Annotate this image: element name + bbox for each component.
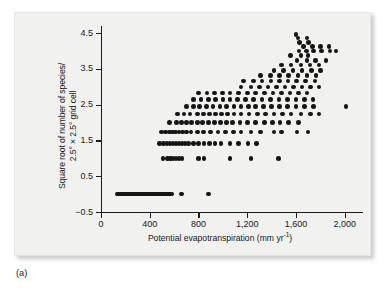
scatter-point — [311, 49, 316, 54]
scatter-point — [228, 97, 233, 102]
scatter-point — [191, 104, 196, 109]
scatter-point — [236, 91, 241, 96]
scatter-point — [223, 130, 228, 135]
x-axis-tick-label: 800 — [191, 219, 206, 229]
y-axis-tick: 2.5 — [96, 105, 101, 106]
scatter-point — [249, 85, 254, 90]
x-axis-tick-label: 0 — [98, 219, 103, 229]
scatter-point — [301, 44, 306, 49]
scatter-point — [297, 40, 302, 45]
y-axis-tick: 4.5 — [96, 33, 101, 34]
scatter-point — [318, 44, 323, 49]
scatter-point — [263, 112, 268, 117]
scatter-point — [230, 120, 235, 125]
scatter-point — [319, 49, 324, 54]
scatter-point — [184, 120, 189, 125]
x-axis-unit-exponent: -1 — [284, 231, 290, 238]
scatter-point — [208, 130, 213, 135]
scatter-point — [313, 79, 318, 84]
scatter-point — [305, 91, 310, 96]
scatter-point — [221, 97, 226, 102]
scatter-point — [294, 79, 299, 84]
scatter-point — [272, 68, 277, 73]
scatter-point — [224, 104, 229, 109]
scatter-point — [246, 104, 251, 109]
scatter-point — [220, 91, 225, 96]
scatter-point — [272, 112, 277, 117]
scatter-point — [211, 104, 216, 109]
scatter-point — [317, 63, 322, 68]
scatter-point — [277, 104, 282, 109]
x-axis-tick — [296, 213, 297, 218]
scatter-point — [189, 120, 194, 125]
scatter-point — [218, 120, 223, 125]
scatter-point — [246, 141, 251, 146]
scatter-point — [239, 85, 244, 90]
scatter-point — [314, 73, 319, 78]
scatter-point — [247, 112, 252, 117]
scatter-point — [239, 130, 244, 135]
scatter-point — [205, 91, 210, 96]
y-axis-tick: 3.5 — [96, 69, 101, 70]
scatter-point — [235, 97, 240, 102]
scatter-point — [206, 120, 211, 125]
scatter-point — [285, 97, 290, 102]
x-axis-tick — [101, 213, 102, 218]
y-axis-tick-label: 4.5 — [80, 28, 93, 38]
scatter-point — [289, 63, 294, 68]
scatter-point — [182, 112, 187, 117]
x-axis-tick — [150, 213, 151, 218]
scatter-point — [285, 104, 290, 109]
scatter-point — [291, 68, 296, 73]
scatter-point — [277, 73, 282, 78]
scatter-point — [344, 104, 349, 109]
scatter-point — [304, 49, 309, 54]
scatter-point — [294, 32, 299, 37]
scatter-point — [286, 120, 291, 125]
scatter-point — [260, 79, 265, 84]
scatter-point — [277, 97, 282, 102]
scatter-point — [213, 141, 218, 146]
scatter-point — [228, 91, 233, 96]
scatter-point — [291, 85, 296, 90]
x-axis-tick-label: 400 — [142, 219, 157, 229]
scatter-point — [195, 112, 200, 117]
scatter-point — [317, 112, 322, 117]
scatter-point — [279, 91, 284, 96]
scatter-point — [279, 130, 284, 135]
scatter-point — [269, 79, 274, 84]
scatter-point — [270, 120, 275, 125]
scatter-point — [184, 130, 189, 135]
scatter-point — [305, 58, 310, 63]
scatter-point — [283, 85, 288, 90]
scatter-point — [289, 112, 294, 117]
scatter-point — [313, 58, 318, 63]
scatter-point — [262, 91, 267, 96]
scatter-point — [286, 73, 291, 78]
scatter-point — [328, 49, 333, 54]
scatter-point — [231, 130, 236, 135]
y-axis-tick-label: 2.5 — [80, 99, 93, 109]
scatter-point — [201, 130, 206, 135]
scatter-point — [184, 104, 189, 109]
scatter-point — [196, 156, 201, 161]
scatter-point — [288, 53, 293, 58]
scatter-point — [219, 112, 224, 117]
scatter-point — [308, 85, 313, 90]
scatter-point — [195, 130, 200, 135]
scatter-point — [206, 97, 211, 102]
scatter-point — [241, 79, 246, 84]
scatter-point — [306, 130, 311, 135]
scatter-point — [306, 53, 311, 58]
scatter-point — [276, 156, 281, 161]
y-axis-title: Square root of number of species/ 2.5° ×… — [57, 31, 79, 221]
scatter-point — [191, 97, 196, 102]
scatter-point — [228, 156, 233, 161]
scatter-point — [311, 97, 316, 102]
scatter-point — [207, 112, 212, 117]
scatter-point — [216, 130, 221, 135]
x-axis-tick — [247, 213, 248, 218]
plot-area: −0.50.51.52.53.54.5 04008001,2001,6002,0… — [101, 26, 363, 213]
y-axis-tick-label: 0.5 — [80, 171, 93, 181]
scatter-point — [201, 112, 206, 117]
